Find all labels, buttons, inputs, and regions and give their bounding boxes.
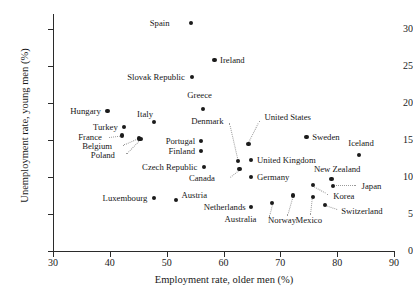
data-point <box>138 137 142 141</box>
scatter-chart: 051015202530 30405060708090 Unemployment… <box>0 0 413 297</box>
data-point <box>311 195 315 199</box>
x-tick-label: 30 <box>41 258 65 268</box>
data-point <box>152 196 156 200</box>
data-point <box>291 193 295 197</box>
y-tick-mark <box>48 140 53 141</box>
data-point-label: Japan <box>362 181 382 190</box>
data-point <box>105 109 109 113</box>
data-point-label: Mexico <box>295 215 322 224</box>
x-tick-label: 90 <box>382 258 406 268</box>
data-point-label: Luxembourg <box>103 193 148 202</box>
y-tick-label: 0 <box>369 246 413 256</box>
data-point <box>246 142 250 146</box>
data-point <box>174 198 178 202</box>
leader-line <box>314 186 328 194</box>
data-point <box>122 125 126 129</box>
data-point-label: Finland <box>169 147 196 156</box>
data-point-label: Sweden <box>312 132 340 141</box>
data-point-label: United Kingdom <box>257 155 316 164</box>
y-axis-title: Unemployment rate, young men (%) <box>19 16 30 236</box>
data-point-label: Czech Republic <box>142 163 197 172</box>
data-point <box>270 201 274 205</box>
data-point-label: Korea <box>333 192 354 201</box>
x-tick-label: 60 <box>212 258 236 268</box>
data-point <box>120 133 124 137</box>
y-tick-mark <box>48 214 53 215</box>
data-point-label: Poland <box>91 151 115 160</box>
data-point <box>152 120 156 124</box>
data-point <box>331 184 335 188</box>
data-point-label: Denmark <box>191 116 223 125</box>
data-point <box>199 139 203 143</box>
leader-line <box>249 120 261 142</box>
y-axis-line <box>53 14 54 252</box>
data-point <box>236 159 240 163</box>
data-point-label: Italy <box>137 109 153 118</box>
data-point-label: Switzerland <box>341 207 383 216</box>
y-tick-mark <box>48 177 53 178</box>
leader-line <box>310 199 313 215</box>
data-point <box>357 153 361 157</box>
x-tick-label: 70 <box>268 258 292 268</box>
y-tick-label: 20 <box>369 98 413 108</box>
data-point <box>199 149 203 153</box>
leader-line <box>229 123 238 158</box>
data-point-label: Iceland <box>348 138 374 147</box>
data-point-label: Australia <box>225 215 257 224</box>
y-tick-label: 30 <box>369 24 413 34</box>
data-point-label: Norway <box>268 215 296 224</box>
y-tick-mark <box>48 29 53 30</box>
data-point-label: Germany <box>257 172 289 181</box>
y-tick-mark <box>48 103 53 104</box>
data-point-label: Spain <box>150 18 170 27</box>
data-point <box>202 165 206 169</box>
y-tick-mark <box>48 66 53 67</box>
data-point <box>304 135 308 139</box>
data-point-label: Slovak Republic <box>127 72 185 81</box>
data-point <box>249 158 253 162</box>
data-point-label: New Zealand <box>314 164 361 173</box>
data-point <box>212 58 216 62</box>
x-tick-label: 40 <box>98 258 122 268</box>
y-tick-label: 25 <box>369 61 413 71</box>
data-point-label: Hungary <box>70 107 100 116</box>
data-point <box>329 177 333 181</box>
data-point-label: Portugal <box>166 136 195 145</box>
leader-line <box>230 170 239 177</box>
data-point-label: Greece <box>187 91 212 100</box>
data-point <box>190 75 194 79</box>
data-point <box>201 107 205 111</box>
y-tick-label: 15 <box>369 135 413 145</box>
data-point <box>323 203 327 207</box>
x-axis-title: Employment rate, older men (%) <box>53 274 395 285</box>
data-point <box>311 183 315 187</box>
data-point <box>249 175 253 179</box>
data-point-label: Ireland <box>220 55 245 64</box>
leader-line <box>336 185 356 186</box>
x-tick-label: 80 <box>325 258 349 268</box>
data-point-label: United States <box>264 112 311 121</box>
x-tick-label: 50 <box>155 258 179 268</box>
leader-line <box>326 206 337 211</box>
data-point-label: Austria <box>181 190 207 199</box>
data-point <box>249 205 253 209</box>
data-point-label: Netherlands <box>204 203 246 212</box>
data-point-label: Canada <box>189 173 215 182</box>
data-point <box>189 21 193 25</box>
data-point <box>237 167 241 171</box>
